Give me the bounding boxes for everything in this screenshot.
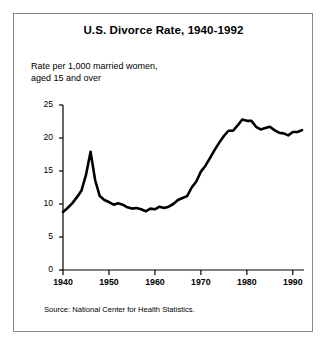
chart-axes: [63, 105, 304, 270]
y-axis-tick-label: 5: [31, 231, 53, 241]
y-axis-tick-label: 10: [31, 198, 53, 208]
x-axis-tick-label: 1950: [89, 277, 129, 287]
x-axis-tick-label: 1940: [43, 277, 83, 287]
y-axis-tick-label: 15: [31, 165, 53, 175]
x-axis-tick-label: 1990: [273, 277, 313, 287]
y-axis-tick-label: 25: [31, 99, 53, 109]
chart-plot-area: 2520151050 194019501960197019801990: [0, 0, 327, 345]
source-note: Source: National Center for Health Stati…: [44, 305, 195, 314]
y-axis-tick-label: 0: [31, 264, 53, 274]
divorce-rate-figure: U.S. Divorce Rate, 1940-1992 Rate per 1,…: [0, 0, 327, 345]
y-axis-tick-label: 20: [31, 132, 53, 142]
x-axis-ticks: [63, 270, 293, 275]
x-axis-tick-label: 1970: [181, 277, 221, 287]
x-axis-tick-label: 1980: [227, 277, 267, 287]
x-axis-tick-label: 1960: [135, 277, 175, 287]
divorce-rate-line: [63, 120, 302, 212]
